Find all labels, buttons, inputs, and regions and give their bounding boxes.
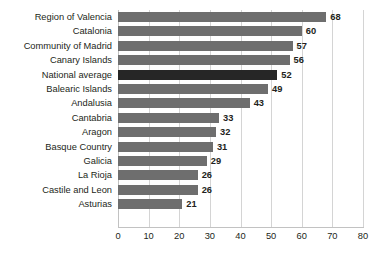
bar-value-label: 26: [202, 168, 212, 182]
bar: [118, 127, 216, 137]
plot-area: Region of Valencia68Catalonia60Community…: [118, 10, 363, 227]
bar: [118, 12, 326, 22]
bar-value-label: 57: [297, 39, 307, 53]
bar-row: National average52: [118, 68, 363, 82]
bar-chart: Region of Valencia68Catalonia60Community…: [0, 0, 382, 253]
bar: [118, 41, 293, 51]
category-label: Andalusia: [0, 96, 112, 110]
bar: [118, 185, 198, 195]
x-axis-tick-label: 40: [235, 230, 245, 242]
bar: [118, 170, 198, 180]
bar-value-label: 52: [281, 68, 291, 82]
bar-row: Galicia29: [118, 154, 363, 168]
category-label: Catalonia: [0, 24, 112, 38]
category-label: Cantabria: [0, 111, 112, 125]
bar: [118, 142, 213, 152]
category-label: Galicia: [0, 154, 112, 168]
category-label: Asturias: [0, 197, 112, 211]
bar-row: Asturias21: [118, 197, 363, 211]
x-axis-tick-label: 70: [327, 230, 337, 242]
category-label: Castile and Leon: [0, 183, 112, 197]
bar-row: Balearic Islands49: [118, 82, 363, 96]
bar-value-label: 68: [330, 10, 340, 24]
bar: [118, 113, 219, 123]
bar-row: Basque Country31: [118, 140, 363, 154]
bar-value-label: 29: [211, 154, 221, 168]
bar-row: La Rioja26: [118, 168, 363, 182]
x-axis-tick-label: 0: [115, 230, 120, 242]
x-axis-tick-label: 80: [358, 230, 368, 242]
category-label: Region of Valencia: [0, 10, 112, 24]
x-axis-tick-label: 30: [205, 230, 215, 242]
category-label: Canary Islands: [0, 53, 112, 67]
x-axis-tick-label: 20: [174, 230, 184, 242]
bar-highlight: [118, 70, 277, 80]
bar-row: Region of Valencia68: [118, 10, 363, 24]
bar-value-label: 43: [254, 96, 264, 110]
bar-row: Community of Madrid57: [118, 39, 363, 53]
bar-value-label: 33: [223, 111, 233, 125]
category-label: Community of Madrid: [0, 39, 112, 53]
bar-row: Catalonia60: [118, 24, 363, 38]
bar-row: Canary Islands56: [118, 53, 363, 67]
x-axis-tick-label: 60: [297, 230, 307, 242]
bar-row: Aragon32: [118, 125, 363, 139]
bar-value-label: 32: [220, 125, 230, 139]
bar-row: Cantabria33: [118, 111, 363, 125]
bar-value-label: 21: [186, 197, 196, 211]
category-label: National average: [0, 68, 112, 82]
bar-value-label: 26: [202, 183, 212, 197]
category-label: Aragon: [0, 125, 112, 139]
gridline-80: [363, 10, 364, 227]
x-axis-tick-label: 50: [266, 230, 276, 242]
bar-value-label: 31: [217, 140, 227, 154]
bar: [118, 55, 290, 65]
category-label: Balearic Islands: [0, 82, 112, 96]
bar: [118, 156, 207, 166]
category-label: La Rioja: [0, 168, 112, 182]
x-axis-baseline: [118, 227, 364, 228]
bar-value-label: 56: [294, 53, 304, 67]
bar: [118, 26, 302, 36]
bar: [118, 98, 250, 108]
bar-value-label: 49: [272, 82, 282, 96]
x-axis-tick-label: 10: [143, 230, 153, 242]
bar-row: Andalusia43: [118, 96, 363, 110]
bar-row: Castile and Leon26: [118, 183, 363, 197]
bar: [118, 199, 182, 209]
bar-value-label: 60: [306, 24, 316, 38]
bar: [118, 84, 268, 94]
category-label: Basque Country: [0, 140, 112, 154]
